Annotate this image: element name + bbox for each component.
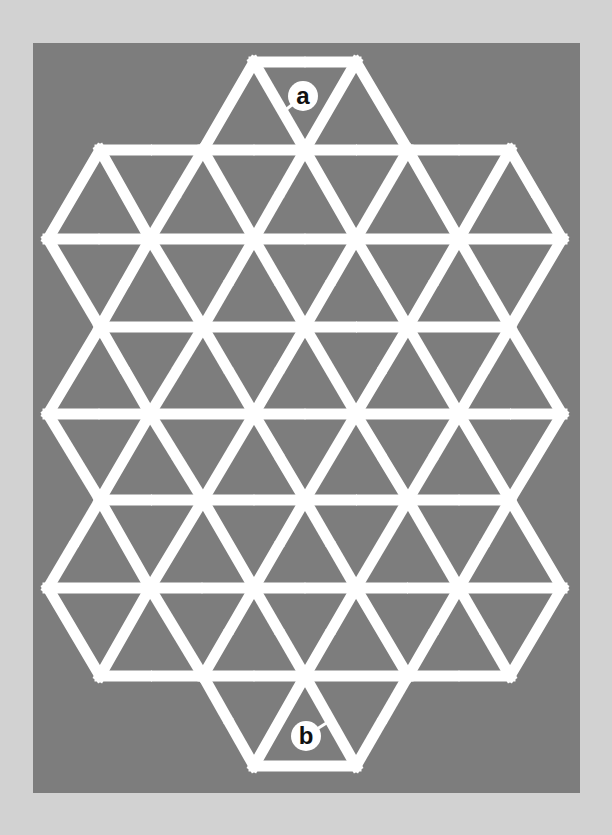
maze-path-segment (282, 150, 305, 190)
maze-path-segment (436, 414, 459, 453)
maze-path-segment (459, 239, 482, 279)
maze-paths (48, 62, 562, 766)
maze-path-segment (254, 239, 277, 279)
maze-path-segment (356, 62, 408, 150)
maze-path-segment (356, 500, 408, 588)
maze-path-segment (100, 287, 123, 327)
maze-path-segment (231, 375, 254, 414)
maze-path-segment (510, 500, 562, 588)
maze-path-segment (100, 150, 150, 239)
maze-path-segment (48, 588, 100, 676)
maze-path-segment (231, 725, 254, 766)
maze-path-segment (179, 150, 203, 190)
maze-path-segment (282, 287, 305, 327)
maze-path-segment (305, 500, 328, 540)
maze-path-segment (385, 461, 408, 500)
maze-path-segment (305, 414, 356, 500)
maze-path-segment (282, 327, 305, 366)
maze-path-segment (203, 500, 254, 588)
maze-path-segment (305, 676, 356, 766)
maze-path-segment (100, 327, 123, 366)
maze-path-segment (356, 725, 379, 766)
maze-path-segment (150, 414, 174, 453)
maze-path-segment (487, 461, 510, 500)
maze-path-segment (510, 150, 533, 190)
maze-path-segment (48, 150, 100, 239)
maze-path-segment (48, 548, 71, 588)
maze-path-segment (203, 62, 254, 150)
label-b: b (299, 722, 314, 749)
maze-path-segment (282, 636, 305, 676)
maze-path-segment (459, 150, 510, 239)
maze-path-segment (408, 461, 431, 500)
maze-path-segment (48, 414, 100, 500)
maze-path-segment (150, 199, 174, 239)
maze-path-segment (305, 327, 356, 414)
maze-path-segment (385, 287, 408, 327)
maze-path-segment (254, 199, 277, 239)
maze-path-segment (408, 287, 431, 327)
maze-path-segment (333, 588, 356, 628)
maze-path-segment (408, 500, 459, 588)
maze-path-segment (487, 636, 510, 676)
maze-path-segment (305, 287, 328, 327)
maze-path-segment (100, 588, 150, 676)
maze-path-segment (254, 588, 277, 628)
maze-path-segment (436, 239, 459, 279)
maze-path-segment (408, 150, 459, 239)
maze-path-segment (459, 375, 482, 414)
maze-path-segment (487, 287, 510, 327)
maze-path-segment (459, 414, 482, 453)
maze-path-segment (333, 548, 356, 588)
maze-path-segment (150, 588, 203, 676)
maze-path-segment (356, 375, 379, 414)
maze-path-segment (150, 375, 174, 414)
maze-grid: ab (0, 0, 612, 835)
maze-path-segment (305, 150, 356, 239)
maze-path-segment (48, 239, 100, 327)
maze-path-segment (203, 150, 254, 239)
maze-path-segment (282, 461, 305, 500)
maze-path-segment (459, 548, 482, 588)
maze-path-segment (203, 327, 226, 366)
maze-path-segment (77, 500, 100, 540)
maze-path-segment (436, 588, 459, 628)
maze-path-segment (254, 414, 277, 453)
maze-path-segment (408, 327, 459, 414)
maze-path-segment (487, 500, 510, 540)
maze-path-segment (231, 239, 254, 279)
maze-path-segment (356, 150, 408, 239)
maze-path-segment (231, 588, 254, 628)
maze-path-segment (203, 414, 254, 500)
maze-path-segment (510, 588, 562, 676)
maze-path-segment (254, 676, 305, 766)
maze-path-segment (305, 636, 328, 676)
maze-path-segment (356, 239, 379, 279)
maze-path-segment (510, 414, 562, 500)
maze-path-segment (487, 327, 510, 366)
maze-path-segment (459, 588, 482, 628)
maze-path-segment (150, 239, 174, 279)
maze-path-segment (127, 375, 150, 414)
maze-path-segment (150, 500, 203, 588)
maze-path-segment (282, 500, 305, 540)
maze-path-segment (179, 287, 203, 327)
maze-path-segment (179, 461, 203, 500)
maze-path-segment (539, 199, 562, 239)
maze-path-segment (203, 676, 226, 717)
maze-path-segment (48, 327, 100, 414)
maze-path-segment (356, 588, 408, 676)
maze-path-segment (385, 676, 408, 717)
maze-path-segment (100, 500, 150, 588)
maze-path-segment (179, 327, 203, 366)
maze-path-segment (510, 327, 562, 414)
maze-path-segment (100, 414, 150, 500)
maze-path-segment (203, 287, 226, 327)
maze-path-segment (254, 375, 277, 414)
maze-path-segment (203, 636, 226, 676)
maze-path-segment (333, 239, 356, 279)
maze-path-segment (385, 327, 408, 366)
maze-path-segment (254, 548, 277, 588)
maze-path-segment (510, 239, 562, 327)
maze-path-segment (127, 239, 150, 279)
